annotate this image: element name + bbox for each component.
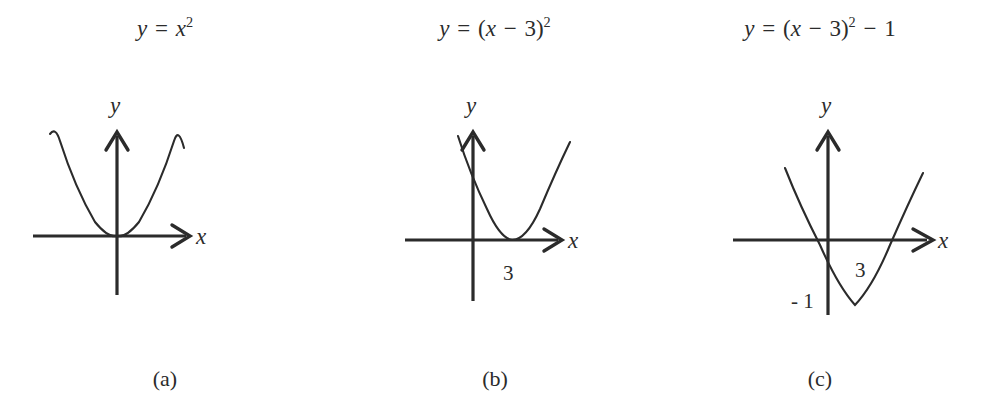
panel-c-title-exponent: 2 [849,14,856,30]
panel-b-y-axis-label: y [464,93,477,118]
panel-b-svg: x y 3 [330,70,660,330]
panel-a-svg: x y [0,70,330,330]
panel-a-title-base: x [176,16,186,41]
panel-a: y = x2 x y (a) [0,0,330,420]
panel-c-title-base: x [791,16,801,41]
panel-b-title: y = (x − 3)2 [330,14,660,44]
panel-b-title-minus: − [502,16,519,41]
panel-a-title-equals: = [153,16,170,41]
panel-c-title-equals: = [760,16,777,41]
panel-c: y = (x − 3)2 − 1 x y 3 - 1 [655,0,985,420]
panel-a-title-lhs: y [137,16,147,41]
panel-a-plot: x y [0,70,330,330]
panel-c-curve [785,168,923,305]
panel-c-title-minus-2: − [861,16,878,41]
panel-b-plot: x y 3 [330,70,660,330]
panel-b-x-axis-label: x [567,228,579,253]
panel-b-curve [458,136,570,240]
panel-b-title-close-paren: ) [536,16,544,41]
panel-b-title-equals: = [455,16,472,41]
panel-b-caption: (b) [330,366,660,392]
panel-b-tick-label-3: 3 [503,261,514,285]
panel-a-caption: (a) [0,366,330,392]
panel-c-x-axis-label: x [937,228,949,253]
panel-c-title-close-paren: ) [841,16,849,41]
panel-c-tick-label-3: 3 [855,258,866,282]
panel-a-title-exponent: 2 [186,14,193,30]
panel-c-title-minus: − [807,16,824,41]
panel-c-title: y = (x − 3)2 − 1 [655,14,985,44]
panel-b-title-lhs: y [439,16,449,41]
panel-c-caption: (c) [655,366,985,392]
panel-a-title: y = x2 [0,14,330,44]
panel-c-tick-label-neg1: - 1 [791,289,814,313]
panel-b-title-shift: 3 [524,16,536,41]
panel-c-title-open-paren: ( [783,16,791,41]
panel-b-title-base: x [486,16,496,41]
panel-a-y-axis-label: y [108,93,121,118]
panel-b-title-open-paren: ( [478,16,486,41]
panel-a-x-axis-label: x [195,224,207,249]
panel-c-title-drop: 1 [884,16,896,41]
panel-c-title-shift: 3 [829,16,841,41]
panel-b: y = (x − 3)2 x y 3 (b) [330,0,660,420]
parabola-translation-figure: y = x2 x y (a) y [0,0,985,420]
panel-c-plot: x y 3 - 1 [655,70,985,330]
panel-c-title-lhs: y [744,16,754,41]
panel-b-title-exponent: 2 [544,14,551,30]
panel-c-svg: x y 3 - 1 [655,70,985,330]
panel-c-y-axis-label: y [819,93,832,118]
